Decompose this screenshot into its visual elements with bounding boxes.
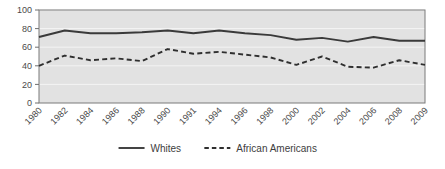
y-tick-label: 100 [17, 5, 32, 15]
chart-canvas: 020406080100 198019821984198619881990199… [0, 0, 445, 169]
x-tick-label: 1994 [203, 105, 224, 126]
x-tick-label: 1998 [254, 105, 275, 126]
plot-area-background [39, 10, 425, 103]
y-tick-label: 40 [22, 61, 32, 71]
x-tick-label: 2000 [280, 105, 301, 126]
y-tick-label: 20 [22, 80, 32, 90]
y-tick-label: 60 [22, 42, 32, 52]
x-tick-label: 1986 [100, 105, 121, 126]
x-tick-label: 1996 [229, 105, 250, 126]
x-axis: 1980198219841986198819901991199419961998… [23, 105, 430, 126]
legend-label-1: Whites [151, 143, 182, 154]
x-tick-label: 2006 [357, 105, 378, 126]
legend-label-2: African Americans [236, 143, 317, 154]
line-chart: 020406080100 198019821984198619881990199… [0, 0, 445, 169]
x-tick-label: 2008 [383, 105, 404, 126]
y-tick-label: 80 [22, 24, 32, 34]
x-tick-label: 1980 [23, 105, 44, 126]
y-axis: 020406080100 [17, 5, 39, 108]
plot-background-group [39, 10, 425, 103]
y-tick-label: 0 [27, 98, 32, 108]
x-tick-label: 2009 [409, 105, 430, 126]
x-tick-label: 1991 [177, 105, 198, 126]
chart-legend: WhitesAfrican Americans [119, 143, 317, 154]
x-tick-label: 2002 [306, 105, 327, 126]
x-tick-label: 2004 [331, 105, 352, 126]
x-tick-label: 1988 [126, 105, 147, 126]
x-tick-label: 1984 [74, 105, 95, 126]
x-tick-label: 1990 [151, 105, 172, 126]
x-tick-label: 1982 [48, 105, 69, 126]
